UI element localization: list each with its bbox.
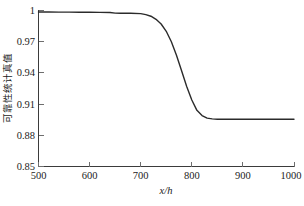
y-tick-label: 1 xyxy=(30,5,35,16)
y-tick-label: 0.91 xyxy=(17,99,35,110)
chart-figure: 1 0.97 0.94 0.91 0.88 0.85 500 600 700 8… xyxy=(0,0,304,206)
x-axis-title: x/h xyxy=(159,185,173,196)
y-axis-title: 可靠性统计真值 xyxy=(2,53,13,123)
x-tick-label: 1000 xyxy=(281,170,302,181)
y-tick-label: 0.88 xyxy=(17,130,35,141)
x-tick-label: 700 xyxy=(133,170,149,181)
reliability-line-chart: 1 0.97 0.94 0.91 0.88 0.85 500 600 700 8… xyxy=(0,0,304,206)
x-tick-label: 900 xyxy=(235,170,251,181)
y-tick-label: 0.94 xyxy=(17,67,36,78)
y-tick-label: 0.97 xyxy=(17,36,35,47)
x-tick-label: 600 xyxy=(82,170,98,181)
x-tick-label: 500 xyxy=(31,170,47,181)
x-tick-label: 800 xyxy=(184,170,200,181)
